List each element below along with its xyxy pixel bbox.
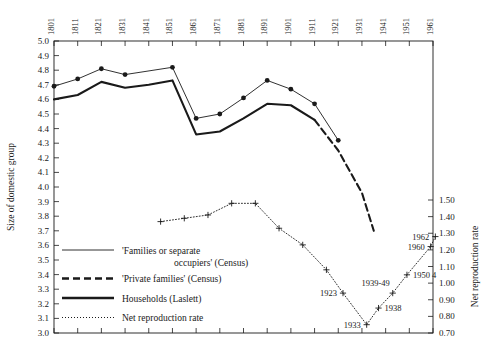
series-point-marker: [288, 87, 293, 92]
x-axis-tick-label: 1901: [283, 18, 293, 35]
y-axis-tick-label: 3.4: [38, 270, 50, 280]
legend-label-1: 'Families or separate: [122, 246, 200, 256]
y-axis-tick-label: 3.1: [38, 313, 49, 323]
series-point-marker: [99, 66, 104, 71]
data-point-annotation: 1938: [385, 303, 402, 313]
x-axis-tick-label: 1811: [70, 18, 80, 35]
y2-axis-tick-label: 0.70: [439, 328, 455, 338]
y2-axis-tick-label: 0.90: [439, 295, 455, 305]
series-point-marker: [336, 138, 341, 143]
series-plus-marker: [340, 290, 346, 296]
x-axis-tick-label: 1941: [378, 18, 388, 35]
legend-label-2: 'Private families' (Census): [122, 274, 221, 285]
series-point-marker: [123, 72, 128, 77]
y-axis-tick-label: 4.6: [38, 94, 50, 104]
y-axis-tick-label: 4.4: [38, 124, 50, 134]
demographic-line-chart: 1801181118211831184118511861187118811891…: [0, 0, 489, 345]
y2-axis-tick-label: 1.10: [439, 262, 455, 272]
data-point-annotation: 1950 4: [413, 270, 437, 280]
data-point-annotation: 1962: [412, 232, 429, 242]
legend-label-1-line2: occupiers' (Census): [174, 258, 248, 269]
series-line: [54, 67, 338, 140]
series-plus-marker: [300, 242, 306, 248]
y-axis-tick-label: 3.7: [38, 226, 50, 236]
legend-label-4: Net reproduction rate: [122, 313, 203, 323]
y-axis-tick-label: 5.0: [38, 36, 50, 46]
x-axis-tick-label: 1871: [212, 18, 222, 35]
series-plus-marker: [252, 200, 258, 206]
data-point-annotation: 1933: [344, 320, 361, 330]
series-point-marker: [170, 65, 175, 70]
y-axis-tick-label: 3.2: [38, 299, 49, 309]
chart-root: 1801181118211831184118511861187118811891…: [0, 0, 489, 345]
y-axis-tick-label: 3.5: [38, 255, 50, 265]
y-axis-tick-label: 3.6: [38, 240, 50, 250]
y-axis-tick-label: 4.3: [38, 138, 50, 148]
data-point-annotation: 1939-49: [361, 278, 389, 288]
y-axis-tick-label: 4.9: [38, 51, 50, 61]
x-axis-tick-label: 1861: [188, 18, 198, 35]
x-axis-tick-label: 1921: [330, 18, 340, 35]
y-axis-tick-label: 4.2: [38, 153, 49, 163]
y-axis-tick-label: 3.0: [38, 328, 50, 338]
x-axis-tick-label: 1951: [401, 18, 411, 35]
series-plus-marker: [205, 212, 211, 218]
y2-axis-tick-label: 0.80: [439, 311, 455, 321]
series-point-marker: [265, 78, 270, 83]
legend-label-3: Households (Laslett): [122, 294, 201, 305]
x-axis-tick-label: 1821: [93, 18, 103, 35]
y-axis-title: Size of domestic group: [6, 143, 16, 231]
series-plus-marker: [229, 200, 235, 206]
x-axis-tick-label: 1961: [425, 18, 435, 35]
series-plus-marker: [364, 322, 370, 328]
y-axis-tick-label: 4.5: [38, 109, 50, 119]
y-axis-tick-label: 4.1: [38, 167, 49, 177]
y2-axis-tick-label: 1.00: [439, 278, 455, 288]
x-axis-tick-label: 1841: [141, 18, 151, 35]
y2-axis-tick-label: 1.50: [439, 195, 455, 205]
y-axis-tick-label: 4.7: [38, 80, 50, 90]
y2-axis-title: Net reproduction rate: [470, 226, 480, 307]
data-point-annotation: 1923: [320, 288, 337, 298]
series-point-marker: [312, 101, 317, 106]
x-axis-tick-label: 1911: [307, 18, 317, 35]
series-line: [54, 80, 315, 134]
series-line: [315, 120, 374, 231]
series-point-marker: [241, 96, 246, 101]
x-axis-tick-label: 1881: [236, 18, 246, 35]
y-axis-tick-label: 3.3: [38, 284, 50, 294]
series-point-marker: [75, 77, 80, 82]
y2-axis-tick-label: 1.40: [439, 212, 455, 222]
series-plus-marker: [375, 305, 381, 311]
x-axis-tick-label: 1801: [46, 18, 56, 35]
series-plus-marker: [181, 215, 187, 221]
series-plus-marker: [390, 290, 396, 296]
y-axis-tick-label: 3.8: [38, 211, 50, 221]
y-axis-tick-label: 4.8: [38, 65, 50, 75]
series-point-marker: [52, 84, 57, 89]
y-axis-tick-label: 3.9: [38, 197, 50, 207]
series-plus-marker: [157, 219, 163, 225]
series-point-marker: [194, 116, 199, 121]
y2-axis-tick-label: 1.20: [439, 245, 455, 255]
y-axis-tick-label: 4.0: [38, 182, 50, 192]
y2-axis-tick-label: 1.30: [439, 228, 455, 238]
x-axis-tick-label: 1831: [117, 18, 127, 35]
x-axis-tick-label: 1931: [354, 18, 364, 35]
x-axis-tick-label: 1851: [164, 18, 174, 35]
series-point-marker: [217, 112, 222, 117]
data-point-annotation: 1960: [408, 242, 425, 252]
x-axis-tick-label: 1891: [259, 18, 269, 35]
